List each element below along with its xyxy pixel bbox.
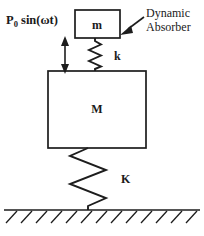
ground <box>4 210 200 223</box>
ground-hatching <box>6 211 197 223</box>
diagram-canvas: P0 sin(ωt) m k M K Dynamic Absorber <box>0 0 204 236</box>
main-spring-label: K <box>121 172 131 186</box>
annotation-line-2: Absorber <box>146 20 191 34</box>
vibration-absorber-diagram: P0 sin(ωt) m k M K Dynamic Absorber <box>0 0 204 236</box>
absorber-mass-label: m <box>92 18 102 32</box>
force-label: P0 sin(ωt) <box>6 13 58 29</box>
absorber-spring <box>89 38 101 71</box>
force-label-expression: sin(ωt) <box>18 13 58 27</box>
force-arrow-head-up <box>61 36 69 46</box>
main-spring <box>70 148 106 210</box>
annotation-line-1: Dynamic <box>146 6 190 20</box>
absorber-spring-label: k <box>114 49 121 63</box>
force-arrow <box>61 36 69 74</box>
main-mass-label: M <box>91 102 102 116</box>
absorber-pointer-arrow <box>120 17 144 35</box>
absorber-pointer-arrow-head <box>120 26 133 36</box>
